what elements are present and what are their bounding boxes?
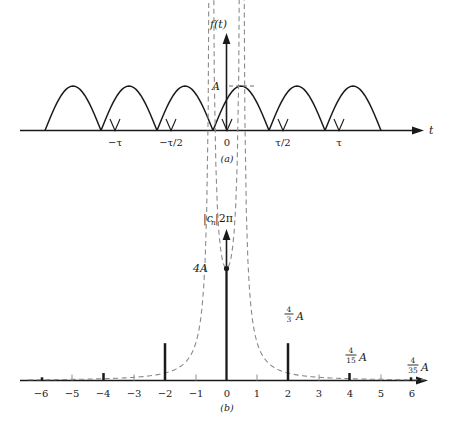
panel-a-caption: (a)	[220, 153, 233, 164]
panel-a-arch-4	[213, 86, 269, 131]
panel-b-label-n-4: 4 15 A	[346, 346, 368, 365]
panel-b-label-n-4-denominator: 15	[346, 356, 356, 365]
panel-b-label-n-6-denominator: 35	[408, 366, 418, 375]
figure-container: t f(t) A −τ −τ/2 0 τ/2 τ	[0, 0, 453, 433]
panel-b-peak-label: 4A	[192, 262, 208, 275]
panel-b-label-n-6: 4 35 A	[408, 356, 430, 375]
panel-b: |c n |2π 4A 4 3 A 4 15 A 4 35	[20, 0, 429, 413]
panel-b-label-n-4-numerator: 4	[349, 346, 354, 355]
panel-b-tick-label-3: −3	[127, 388, 142, 399]
panel-a-tick--tau-half	[166, 119, 176, 131]
panel-b-tick-label-12: 6	[409, 388, 415, 399]
panel-b-label-n-2-suffix: A	[295, 310, 304, 323]
panel-a-y-axis-label: f(t)	[209, 18, 227, 31]
panel-a: t f(t) A −τ −τ/2 0 τ/2 τ	[20, 18, 434, 164]
panel-b-tick-label-4: −2	[158, 388, 173, 399]
panel-b-tick-label-10: 4	[347, 388, 353, 399]
panel-a-tick--tau	[110, 119, 120, 131]
panel-a-arch-5	[269, 86, 325, 131]
panel-b-tick-label-2: −4	[96, 388, 111, 399]
panel-b-y-axis-arrowhead	[223, 229, 231, 240]
panel-b-peak-dot-marker	[224, 266, 229, 271]
panel-a-x-axis-arrowhead	[412, 127, 424, 135]
figure-svg: t f(t) A −τ −τ/2 0 τ/2 τ	[0, 0, 453, 433]
panel-b-label-n-2: 4 3 A	[285, 305, 305, 324]
panel-b-tick-label-11: 5	[378, 388, 384, 399]
panel-b-label-n-4-suffix: A	[358, 351, 367, 364]
panel-b-tick-label-6: 0	[224, 388, 230, 399]
panel-a-tick-label-0: −τ	[108, 137, 122, 148]
panel-b-x-axis-arrowhead	[416, 377, 428, 385]
panel-b-tick-label-7: 1	[254, 388, 260, 399]
panel-a-arch-6	[325, 86, 381, 131]
panel-b-label-n-6-suffix: A	[420, 361, 429, 374]
panel-b-label-n-6-numerator: 4	[411, 356, 416, 365]
panel-a-tick-tau-half	[278, 119, 288, 131]
panel-a-tick-label-2: 0	[224, 137, 230, 148]
panel-b-caption: (b)	[220, 402, 234, 413]
panel-a-arch-3	[157, 86, 213, 131]
panel-b-label-n-2-denominator: 3	[287, 315, 292, 324]
panel-b-tick-label-0: −6	[34, 388, 49, 399]
panel-a-x-axis-label: t	[429, 124, 434, 137]
panel-a-tick-tau	[334, 119, 344, 131]
panel-a-tick-label-3: τ/2	[275, 137, 290, 148]
panel-a-arch-1	[45, 86, 101, 131]
panel-a-amplitude-label: A	[211, 80, 220, 93]
panel-a-y-axis-arrowhead	[223, 33, 231, 44]
panel-a-tick-label-1: −τ/2	[159, 137, 183, 148]
panel-b-tick-label-5: −1	[189, 388, 204, 399]
panel-a-arch-2	[101, 86, 157, 131]
panel-b-tick-label-8: 2	[285, 388, 291, 399]
panel-b-tick-label-9: 3	[316, 388, 322, 399]
panel-a-tick-label-4: τ	[336, 137, 342, 148]
panel-b-tick-label-1: −5	[65, 388, 80, 399]
panel-b-label-n-2-numerator: 4	[287, 305, 292, 314]
